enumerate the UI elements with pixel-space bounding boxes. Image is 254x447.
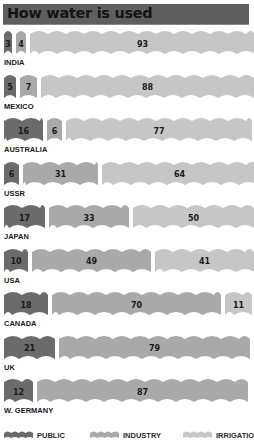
bar-value-irrigation: 41 bbox=[199, 257, 210, 266]
bar-value-industry: 49 bbox=[86, 257, 97, 266]
country-label: CANADA bbox=[4, 319, 37, 328]
bar-segment-industry: 70 bbox=[52, 292, 221, 318]
bar-segment-public: 18 bbox=[4, 292, 48, 318]
legend-label-irrigation: IRRIGATION bbox=[216, 431, 254, 440]
bar-value-irrigation: 50 bbox=[188, 214, 199, 223]
bar-value-public: 21 bbox=[24, 344, 35, 353]
bar-segment-industry: 79 bbox=[59, 336, 250, 362]
bar-value-public: 6 bbox=[9, 170, 15, 179]
country-label: W. GERMANY bbox=[4, 406, 53, 415]
legend-label-industry: INDUSTRY bbox=[123, 431, 161, 440]
bar-value-public: 18 bbox=[20, 301, 31, 310]
bar-segment-public: 21 bbox=[4, 336, 55, 362]
country-label: INDIA bbox=[4, 58, 24, 67]
bar-segment-irrigation: 50 bbox=[133, 205, 254, 231]
bar-value-public: 12 bbox=[13, 388, 24, 397]
bar-value-public: 10 bbox=[10, 257, 21, 266]
bar-segment-irrigation: 11 bbox=[225, 292, 252, 318]
bar-segment-irrigation: 41 bbox=[155, 249, 254, 275]
bar-value-industry: 87 bbox=[137, 388, 148, 397]
bar-segment-public: 12 bbox=[4, 379, 33, 405]
bar-segment-industry: 6 bbox=[47, 118, 62, 144]
country-label: MEXICO bbox=[4, 102, 34, 111]
bar-segment-public: 6 bbox=[4, 162, 19, 188]
chart-title: How water is used bbox=[7, 5, 152, 21]
country-label: USSR bbox=[4, 189, 25, 198]
legend-label-public: PUBLIC bbox=[37, 431, 65, 440]
bar-segment-public: 3 bbox=[4, 31, 12, 57]
bar-segment-industry: 4 bbox=[16, 31, 26, 57]
bar-value-industry: 7 bbox=[26, 83, 32, 92]
bar-value-public: 5 bbox=[7, 83, 13, 92]
bar-segment-irrigation: 77 bbox=[66, 118, 252, 144]
bar-value-irrigation: 88 bbox=[142, 83, 153, 92]
bar-segment-public: 10 bbox=[4, 249, 28, 275]
bar-value-industry: 33 bbox=[83, 214, 94, 223]
bar-value-industry: 79 bbox=[149, 344, 160, 353]
legend-item-public: PUBLIC bbox=[4, 428, 65, 442]
legend: PUBLIC INDUSTRY IRRIGATION bbox=[0, 428, 254, 442]
country-label: AUSTRALIA bbox=[4, 145, 47, 154]
bar-segment-irrigation: 93 bbox=[30, 31, 254, 57]
legend-swatch-industry bbox=[90, 431, 119, 440]
chart-title-bar: How water is used bbox=[3, 4, 249, 25]
bar-value-industry: 4 bbox=[18, 40, 24, 49]
country-label: USA bbox=[4, 276, 20, 285]
bar-value-public: 3 bbox=[5, 40, 11, 49]
legend-swatch-irrigation bbox=[183, 431, 212, 440]
bar-value-industry: 70 bbox=[131, 301, 142, 310]
country-label: JAPAN bbox=[4, 232, 29, 241]
bar-segment-public: 16 bbox=[4, 118, 43, 144]
bar-segment-industry: 7 bbox=[20, 75, 37, 101]
bar-value-irrigation: 77 bbox=[153, 127, 164, 136]
bar-segment-industry: 33 bbox=[49, 205, 129, 231]
bar-value-irrigation: 11 bbox=[233, 301, 244, 310]
bar-segment-irrigation: 64 bbox=[102, 162, 254, 188]
country-label: UK bbox=[4, 363, 15, 372]
bar-segment-public: 17 bbox=[4, 205, 45, 231]
bar-value-irrigation: 64 bbox=[174, 170, 185, 179]
bar-segment-industry: 49 bbox=[32, 249, 151, 275]
bar-value-industry: 31 bbox=[55, 170, 66, 179]
bar-value-public: 16 bbox=[18, 127, 29, 136]
bar-segment-public: 5 bbox=[4, 75, 16, 101]
bar-segment-irrigation: 88 bbox=[41, 75, 254, 101]
bar-value-public: 17 bbox=[19, 214, 30, 223]
bar-segment-industry: 31 bbox=[23, 162, 98, 188]
bar-value-irrigation: 93 bbox=[137, 40, 148, 49]
legend-swatch-public bbox=[4, 431, 33, 440]
legend-item-industry: INDUSTRY bbox=[90, 428, 161, 442]
bar-value-industry: 6 bbox=[52, 127, 58, 136]
legend-item-irrigation: IRRIGATION bbox=[183, 428, 254, 442]
bar-segment-industry: 87 bbox=[37, 379, 248, 405]
